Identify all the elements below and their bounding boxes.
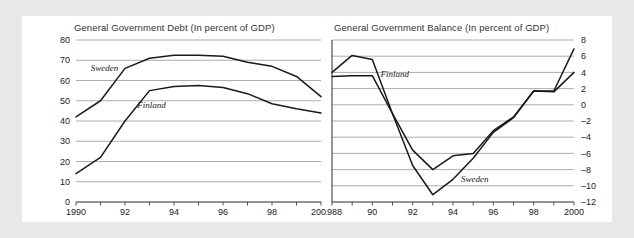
y-tick-label: 40 (60, 116, 70, 126)
y-tick-label: 30 (60, 136, 70, 146)
plot-area-debt: 010203040506070801990929496982000SwedenF… (36, 16, 326, 222)
x-tick-label: 2000 (564, 207, 584, 217)
y-tick-label: –6 (581, 149, 591, 159)
x-tick-label: 92 (120, 207, 130, 217)
y-tick-label: 0 (581, 100, 586, 110)
series-label-sweden: Sweden (91, 63, 119, 73)
x-tick-label: 98 (529, 207, 539, 217)
chart-general-government-debt: General Government Debt (In percent of G… (36, 16, 326, 222)
x-tick-label: 98 (267, 207, 277, 217)
series-label-finland: Finland (379, 69, 409, 79)
y-tick-label: –8 (581, 165, 591, 175)
series-line-finland (76, 86, 321, 174)
y-tick-label: 80 (60, 35, 70, 45)
series-line-finland (332, 49, 574, 170)
figure-panel: General Government Debt (In percent of G… (22, 16, 612, 222)
plot-area-balance: 86420–2–4–6–8–10–12198890929496982000Fin… (326, 16, 612, 222)
x-tick-label: 96 (218, 207, 228, 217)
y-tick-label: –4 (581, 132, 591, 142)
series-line-sweden (332, 72, 574, 194)
series-label-sweden: Sweden (461, 174, 489, 184)
y-tick-label: 20 (60, 157, 70, 167)
y-tick-label: 6 (581, 51, 586, 61)
x-tick-label: 94 (169, 207, 179, 217)
x-tick-label: 90 (367, 207, 377, 217)
y-tick-label: 8 (581, 35, 586, 45)
x-tick-label: 1988 (326, 207, 342, 217)
y-tick-label: 50 (60, 96, 70, 106)
y-tick-label: 60 (60, 76, 70, 86)
figure-frame: General Government Debt (In percent of G… (0, 0, 634, 238)
series-label-finland: Finland (136, 100, 166, 110)
chart-general-government-balance: General Government Balance (In percent o… (326, 16, 612, 222)
y-tick-label: 0 (65, 197, 70, 207)
x-tick-label: 94 (448, 207, 458, 217)
y-tick-label: –10 (581, 181, 596, 191)
y-tick-label: 4 (581, 68, 586, 78)
x-tick-label: 2000 (311, 207, 326, 217)
y-tick-label: 70 (60, 55, 70, 65)
x-tick-label: 1990 (66, 207, 86, 217)
x-tick-label: 92 (408, 207, 418, 217)
y-tick-label: –2 (581, 116, 591, 126)
y-tick-label: –12 (581, 197, 596, 207)
y-tick-label: 10 (60, 177, 70, 187)
y-tick-label: 2 (581, 84, 586, 94)
x-tick-label: 96 (488, 207, 498, 217)
